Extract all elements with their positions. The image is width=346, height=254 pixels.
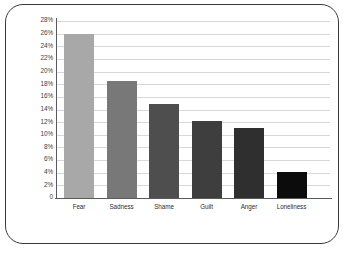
- bar-chart: 28%26%24%22%20%18%16%14%12%10%8%6%4%2%0 …: [0, 0, 346, 254]
- bar-sadness[interactable]: [107, 81, 137, 198]
- bar-loneliness[interactable]: [277, 172, 307, 198]
- bar-shame[interactable]: [149, 104, 179, 198]
- axis-baseline: [55, 198, 332, 199]
- bar-guilt[interactable]: [192, 121, 222, 198]
- bars-group: [0, 0, 346, 198]
- bar-fear[interactable]: [64, 34, 94, 198]
- bar-anger[interactable]: [234, 128, 264, 198]
- x-axis-label-loneliness: Loneliness: [262, 203, 322, 210]
